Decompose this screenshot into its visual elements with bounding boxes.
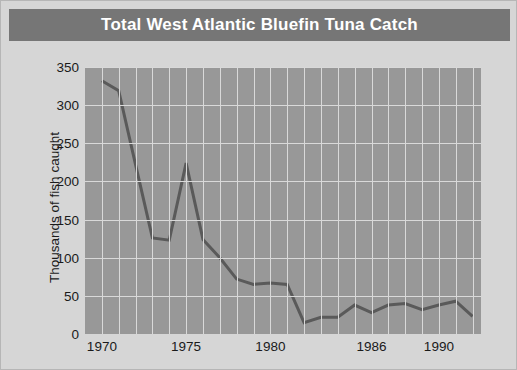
gridline-vertical <box>254 67 255 334</box>
x-axis-tick-label: 1990 <box>424 339 454 354</box>
x-axis-tick-label: 1970 <box>87 339 117 354</box>
gridline-vertical <box>270 67 271 334</box>
gridline-vertical <box>203 67 204 334</box>
gridline-vertical <box>136 67 137 334</box>
y-axis-tick-label: 150 <box>1 212 79 227</box>
gridline-horizontal <box>85 220 481 221</box>
y-axis-tick-label: 250 <box>1 136 79 151</box>
gridline-vertical <box>152 67 153 334</box>
gridline-horizontal <box>85 143 481 144</box>
gridline-vertical <box>355 67 356 334</box>
gridline-vertical <box>422 67 423 334</box>
y-axis-tick-label: 0 <box>1 327 79 342</box>
y-axis-tick-label: 200 <box>1 174 79 189</box>
chart-figure: Total West Atlantic Bluefin Tuna Catch 0… <box>0 0 517 370</box>
gridline-vertical <box>220 67 221 334</box>
page-title: Total West Atlantic Bluefin Tuna Catch <box>101 15 418 35</box>
chart-title-bar: Total West Atlantic Bluefin Tuna Catch <box>9 9 510 41</box>
gridline-vertical <box>102 67 103 334</box>
gridline-horizontal <box>85 67 481 68</box>
gridline-vertical <box>338 67 339 334</box>
y-axis-tick-label: 50 <box>1 288 79 303</box>
y-axis-tick-label: 350 <box>1 60 79 75</box>
gridline-vertical <box>237 67 238 334</box>
y-axis-tick-labels: 050100150200250300350 <box>1 1 79 370</box>
gridline-vertical <box>321 67 322 334</box>
y-axis-tick-label: 300 <box>1 98 79 113</box>
x-axis-tick-label: 1975 <box>171 339 201 354</box>
gridline-vertical <box>473 67 474 334</box>
y-axis-title: Thousands of fish caught <box>47 83 62 333</box>
gridline-vertical <box>169 67 170 334</box>
gridline-vertical <box>439 67 440 334</box>
gridline-vertical <box>372 67 373 334</box>
gridline-horizontal <box>85 258 481 259</box>
gridline-vertical <box>186 67 187 334</box>
plot-area <box>85 67 481 334</box>
gridline-vertical <box>287 67 288 334</box>
gridline-vertical <box>405 67 406 334</box>
gridline-vertical <box>304 67 305 334</box>
x-axis-tick-label: 1980 <box>255 339 285 354</box>
x-axis-tick-label: 1986 <box>356 339 386 354</box>
gridline-vertical <box>456 67 457 334</box>
gridline-vertical <box>388 67 389 334</box>
gridline-horizontal <box>85 296 481 297</box>
y-axis-tick-label: 100 <box>1 250 79 265</box>
gridline-horizontal <box>85 105 481 106</box>
gridline-horizontal <box>85 181 481 182</box>
gridline-vertical <box>119 67 120 334</box>
